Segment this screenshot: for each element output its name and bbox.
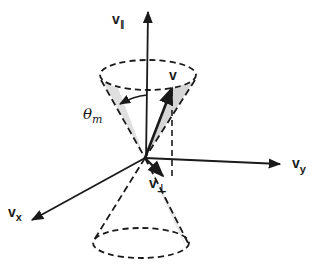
theta-m-arc <box>120 95 147 104</box>
v-perp-label: v⊥ <box>149 175 167 194</box>
cone-edges <box>94 80 195 245</box>
v-label: v <box>169 67 177 83</box>
loss-cone-diagram: v∥ v θm v⊥ vy vx <box>0 0 316 265</box>
v-perp-vector <box>145 158 163 176</box>
v-parallel-label: v∥ <box>112 11 125 30</box>
v-y-axis <box>145 158 280 164</box>
v-parallel-axis <box>146 12 148 160</box>
lower-cone-rim <box>93 228 189 258</box>
v-x-label: vx <box>8 204 23 223</box>
v-y-label: vy <box>292 155 307 175</box>
theta-m-label: θm <box>83 105 102 126</box>
v-x-axis <box>32 158 145 220</box>
cone-shading <box>103 82 193 248</box>
